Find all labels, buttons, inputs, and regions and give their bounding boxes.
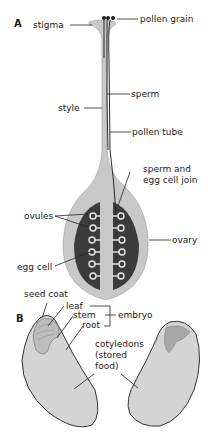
label-cotyledons-line2: (stored bbox=[95, 350, 127, 360]
label-cotyledons-line1: cotyledons bbox=[95, 339, 144, 349]
pollen-grains bbox=[102, 16, 115, 20]
label-pollen-grain: pollen grain bbox=[140, 14, 193, 24]
ovary-central-column bbox=[101, 198, 112, 293]
label-style: style bbox=[58, 103, 80, 113]
seed-half-left bbox=[22, 315, 98, 426]
flower-fertilization-diagram: A bbox=[0, 0, 212, 440]
panel-b-letter: B bbox=[16, 313, 24, 324]
label-sperm: sperm bbox=[131, 89, 159, 99]
label-ovary: ovary bbox=[172, 235, 198, 245]
label-seed-coat: seed coat bbox=[24, 289, 68, 299]
label-sperm-egg-join-line2: egg cell join bbox=[143, 175, 197, 185]
label-pollen-tube: pollen tube bbox=[132, 127, 183, 137]
label-cotyledons-line3: food) bbox=[95, 361, 118, 371]
label-stigma: stigma bbox=[33, 20, 64, 30]
label-ovules: ovules bbox=[24, 211, 54, 221]
panel-b: B seed coat leaf stem bbox=[16, 289, 200, 427]
panel-a: A bbox=[14, 14, 198, 300]
seed-half-right bbox=[128, 321, 200, 426]
panel-a-letter: A bbox=[14, 18, 22, 29]
label-stem: stem bbox=[73, 310, 96, 320]
label-egg-cell: egg cell bbox=[17, 262, 52, 272]
label-sperm-egg-join-line1: sperm and bbox=[143, 164, 191, 174]
label-embryo: embryo bbox=[118, 310, 153, 320]
label-root: root bbox=[82, 320, 101, 330]
